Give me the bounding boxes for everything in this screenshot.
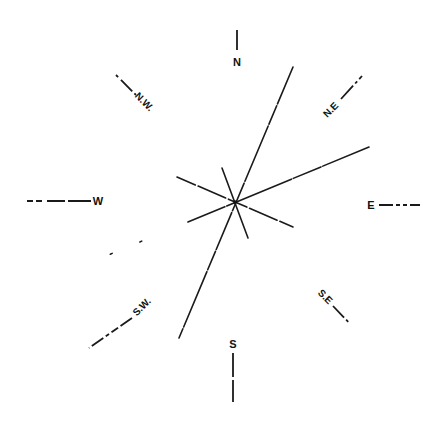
south-marker: S bbox=[229, 338, 236, 402]
northeast-marker: N.E bbox=[321, 76, 362, 119]
east-marker: E bbox=[367, 199, 420, 211]
label-s: S bbox=[229, 338, 236, 350]
label-e: E bbox=[367, 199, 374, 211]
label-w: W bbox=[93, 195, 104, 207]
southeast-marker: S.E bbox=[316, 287, 355, 329]
west-marker: W bbox=[27, 195, 104, 207]
label-sw: S.W. bbox=[130, 295, 153, 318]
label-nw: N.W. bbox=[133, 90, 156, 113]
north-marker: N bbox=[233, 30, 241, 68]
label-ne: N.E bbox=[321, 100, 341, 120]
label-se: S.E bbox=[316, 287, 335, 306]
wind-rose-diagram: N N.E E S.E S S.W. W N.W. bbox=[0, 0, 445, 434]
center-point bbox=[233, 200, 237, 204]
northwest-marker: N.W. bbox=[116, 75, 156, 113]
label-n: N bbox=[233, 56, 241, 68]
southwest-marker: S.W. bbox=[89, 295, 153, 348]
